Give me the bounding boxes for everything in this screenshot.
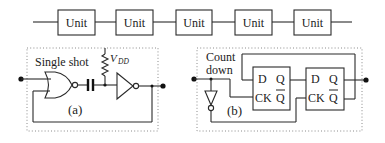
d-flipflop-2: D Q CK Q bbox=[306, 68, 344, 110]
svg-text:Unit: Unit bbox=[66, 16, 88, 30]
inverter-down-icon bbox=[205, 91, 217, 111]
panel-a-single-shot: Single shot V DD bbox=[18, 48, 165, 131]
output-terminal-a bbox=[160, 83, 165, 88]
d-flipflop-1: D Q CK Q bbox=[253, 67, 290, 110]
output-terminal-b bbox=[363, 77, 368, 82]
svg-text:D: D bbox=[258, 72, 267, 86]
vdd-label: V bbox=[110, 52, 118, 64]
panel-b-title-line1: Count bbox=[206, 50, 236, 64]
panel-a-title: Single shot bbox=[35, 55, 89, 69]
svg-text:Q: Q bbox=[329, 91, 338, 105]
nor-gate-icon bbox=[45, 72, 78, 98]
panel-b-count-down: Count down (b) D Q CK Q bbox=[191, 48, 368, 131]
capacitor-icon bbox=[88, 79, 93, 91]
svg-text:CK: CK bbox=[255, 91, 272, 105]
inverter-icon bbox=[117, 73, 139, 99]
svg-text:Q: Q bbox=[329, 72, 338, 86]
resistor-icon bbox=[102, 48, 108, 85]
vdd-subscript: DD bbox=[117, 57, 129, 66]
svg-text:D: D bbox=[311, 72, 320, 86]
svg-text:Unit: Unit bbox=[243, 16, 265, 30]
unit-chain: Unit Unit Unit Unit Unit bbox=[33, 10, 352, 35]
svg-text:Q: Q bbox=[276, 91, 285, 105]
circuit-diagram: Unit Unit Unit Unit Unit Single shot bbox=[0, 0, 385, 143]
panel-b-title-line2: down bbox=[206, 63, 233, 77]
panel-b-caption: (b) bbox=[227, 103, 242, 118]
svg-text:CK: CK bbox=[308, 91, 325, 105]
svg-text:Unit: Unit bbox=[302, 16, 324, 30]
svg-text:Unit: Unit bbox=[124, 16, 146, 30]
unit-box-3: Unit bbox=[176, 10, 212, 35]
svg-text:Q: Q bbox=[276, 72, 285, 86]
unit-box-4: Unit bbox=[235, 10, 272, 35]
unit-box-5: Unit bbox=[294, 10, 331, 35]
panel-a-caption: (a) bbox=[68, 102, 82, 117]
unit-box-1: Unit bbox=[58, 10, 95, 35]
svg-text:Unit: Unit bbox=[183, 16, 205, 30]
unit-box-2: Unit bbox=[116, 10, 153, 35]
